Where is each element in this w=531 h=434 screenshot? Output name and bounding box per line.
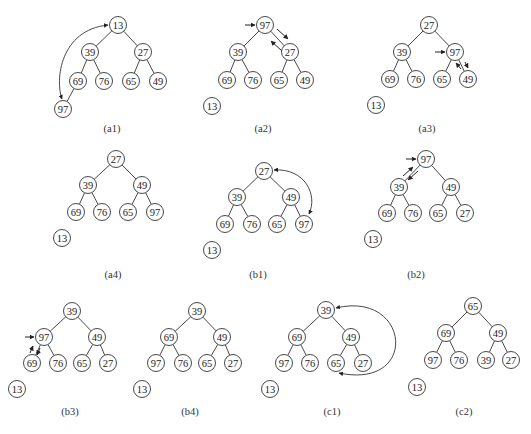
node-value: 76 <box>178 358 189 369</box>
heap-node: 76 <box>175 355 192 372</box>
arrow-icon <box>465 62 468 68</box>
heap-sort-diagram: 1339276976654997(a1)9739276976654913(a2)… <box>0 0 531 434</box>
heap-node: 27 <box>355 355 372 372</box>
heap-node: 39 <box>318 302 335 319</box>
heap-node: 39 <box>189 303 206 320</box>
node-value: 39 <box>397 47 408 58</box>
node-value: 65 <box>123 207 134 218</box>
node-value: 69 <box>441 328 452 339</box>
heap-node: 49 <box>214 329 231 346</box>
tree-edge <box>175 317 191 331</box>
heap-node: 97 <box>147 204 164 221</box>
heap-node: 49 <box>343 329 360 346</box>
tree-edge <box>432 165 446 180</box>
panel-b2: 9739496976652713(b2) <box>365 151 474 281</box>
heap-node: 97 <box>425 352 442 369</box>
node-value: 76 <box>454 355 465 366</box>
node-value: 69 <box>222 75 233 86</box>
panel-c1: 3969499776652713(c1) <box>262 302 396 418</box>
detached-node: 13 <box>204 98 221 115</box>
tree-edge <box>502 341 508 353</box>
heap-node: 69 <box>289 329 306 346</box>
node-value: 69 <box>385 74 396 85</box>
arrow-icon <box>277 29 288 39</box>
tree-edge <box>450 341 456 353</box>
tree-edge <box>446 60 452 72</box>
tree-edge <box>173 344 179 355</box>
panels-container: 1339276976654997(a1)9739276976654913(a2)… <box>9 17 520 418</box>
tree-edge <box>241 204 248 216</box>
heap-node: 76 <box>302 355 319 372</box>
heap-node: 27 <box>282 44 299 61</box>
heap-node: 65 <box>120 204 137 221</box>
node-value: 76 <box>97 207 108 218</box>
node-value: 27 <box>259 166 270 177</box>
node-value: 76 <box>305 358 316 369</box>
heap-node: 69 <box>219 72 236 89</box>
node-value: 65 <box>331 358 342 369</box>
node-value: 97 <box>421 154 432 165</box>
panel-a3: 2739976976654913(a3) <box>368 17 477 135</box>
heap-node: 27 <box>225 355 242 372</box>
heap-node: 69 <box>379 205 396 222</box>
heap-node: 65 <box>74 355 91 372</box>
tree-edge <box>81 60 87 73</box>
tree-edge <box>134 60 140 73</box>
panel-a4: 2739496976659713(a4) <box>54 151 164 281</box>
tree-edge <box>96 31 112 46</box>
panel-caption: (b1) <box>249 269 267 281</box>
node-value: 13 <box>371 100 382 111</box>
node-value: 76 <box>247 219 258 230</box>
heap-node: 97 <box>447 44 464 61</box>
heap-node: 65 <box>123 73 140 90</box>
heap-node: 49 <box>89 329 106 346</box>
node-value: 39 <box>85 47 96 58</box>
heap-node: 76 <box>245 72 262 89</box>
node-value: 49 <box>153 76 164 87</box>
node-value: 65 <box>126 76 137 87</box>
heap-node: 76 <box>94 204 111 221</box>
tree-edge <box>282 60 287 72</box>
panel-caption: (a1) <box>104 123 121 135</box>
heap-node: 65 <box>199 355 216 372</box>
detached-node: 13 <box>409 379 426 396</box>
node-value: 39 <box>192 306 203 317</box>
tree-edge <box>94 60 101 74</box>
tree-edge <box>393 60 398 71</box>
node-value: 13 <box>12 384 23 395</box>
heap-node: 97 <box>257 17 274 34</box>
heap-node: 65 <box>434 71 451 88</box>
node-value: 27 <box>424 20 435 31</box>
heap-node: 27 <box>503 352 520 369</box>
panel-caption: (c1) <box>324 406 341 418</box>
heap-node: 76 <box>451 352 468 369</box>
heap-node: 39 <box>82 44 99 61</box>
tree-edge <box>355 345 360 356</box>
node-value: 49 <box>300 75 311 86</box>
node-value: 27 <box>358 358 369 369</box>
heap-node: 97 <box>148 355 165 372</box>
node-value: 13 <box>265 384 276 395</box>
tree-edge <box>230 60 235 72</box>
heap-node: 13 <box>110 17 127 34</box>
heap-node: 49 <box>297 72 314 89</box>
tree-edge <box>288 345 293 356</box>
tree-edge <box>86 344 93 355</box>
node-value: 13 <box>412 382 423 393</box>
tree-edge <box>160 345 165 356</box>
heap-node: 65 <box>465 298 482 315</box>
tree-edge <box>406 60 412 72</box>
heap-node: 69 <box>438 325 455 342</box>
node-value: 65 <box>202 358 213 369</box>
tree-edge <box>132 193 138 205</box>
panel-caption: (a2) <box>255 123 272 135</box>
tree-edge <box>437 341 443 353</box>
arrow-icon <box>30 346 33 353</box>
node-value: 97 <box>450 47 461 58</box>
node-value: 49 <box>217 332 228 343</box>
tree-edge <box>244 31 259 46</box>
heap-node: 97 <box>36 329 53 346</box>
panel-b1: 2739496976659713(b1) <box>204 163 313 281</box>
tree-edge <box>340 344 347 355</box>
tree-edge <box>225 345 229 355</box>
